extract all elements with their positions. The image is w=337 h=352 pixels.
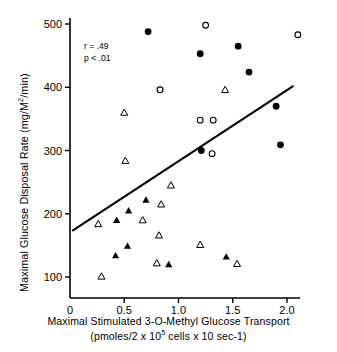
scatter-plot-figure: 10020030040050000.51.01.52.0 r = .49 p <… [0,0,337,352]
y-tick-label: 200 [44,208,62,220]
regression-line-segment [72,86,293,231]
data-point-open-triangle [122,157,129,163]
data-point-filled-circle [198,147,205,154]
data-point-filled-triangle [223,253,230,259]
data-point-open-circle [197,117,203,123]
data-point-open-triangle [95,220,102,226]
x-axis-units-suffix: cells x 10 sec-1) [165,330,246,342]
data-point-filled-circle [145,28,152,35]
data-point-filled-triangle [165,261,172,267]
data-point-filled-circle [197,50,204,57]
data-point-filled-triangle [125,207,132,213]
plot-canvas: 10020030040050000.51.01.52.0 [0,0,337,352]
series-open-triangle [95,86,241,279]
x-axis-title-line1: Maximal Stimulated 3-O-Methyl Glucose Tr… [0,315,337,327]
data-point-open-triangle [197,241,204,247]
data-point-open-circle [210,117,216,123]
data-point-open-circle [157,87,163,93]
data-point-open-triangle [121,109,128,115]
y-tick-label: 400 [44,81,62,93]
p-value-text: p < .01 [84,52,111,64]
data-point-filled-circle [235,43,242,50]
data-point-filled-circle [246,69,253,76]
series-open-circle [157,22,301,156]
y-axis-title: Maximal Glucose Disposal Rate (mg/M2/min… [16,73,30,292]
y-axis-title-superscript: 2 [16,98,25,102]
data-point-open-triangle [158,201,165,207]
y-tick-label: 300 [44,145,62,157]
y-tick-label: 100 [44,271,62,283]
correlation-coefficient-text: r = .49 [84,40,111,52]
data-point-filled-circle [273,103,280,110]
y-axis-title-prefix: Maximal Glucose Disposal Rate (mg/M [18,102,30,292]
data-point-open-circle [203,22,209,28]
data-point-open-triangle [153,260,160,266]
series-filled-circle [145,28,284,154]
series-filled-triangle [112,196,230,267]
y-axis-title-suffix: /min) [18,73,30,98]
y-tick-label: 500 [44,18,62,30]
data-points [95,22,301,279]
data-point-open-circle [295,32,301,38]
data-point-filled-circle [277,141,284,148]
data-point-filled-triangle [113,216,120,222]
data-point-filled-triangle [142,196,149,202]
statistics-annotation: r = .49 p < .01 [84,40,111,64]
data-point-open-triangle [167,182,174,188]
data-point-open-triangle [139,217,146,223]
data-point-open-triangle [98,273,105,279]
x-axis-units-prefix: (pmoles/2 x 10 [90,330,161,342]
data-point-open-triangle [234,260,241,266]
data-point-filled-triangle [112,252,119,258]
data-point-open-circle [209,151,215,157]
data-point-filled-triangle [124,242,131,248]
data-point-open-triangle [222,86,229,92]
data-point-open-triangle [155,232,162,238]
x-axis-title-line2: (pmoles/2 x 105 cells x 10 sec-1) [0,329,337,342]
regression-line [72,86,293,231]
